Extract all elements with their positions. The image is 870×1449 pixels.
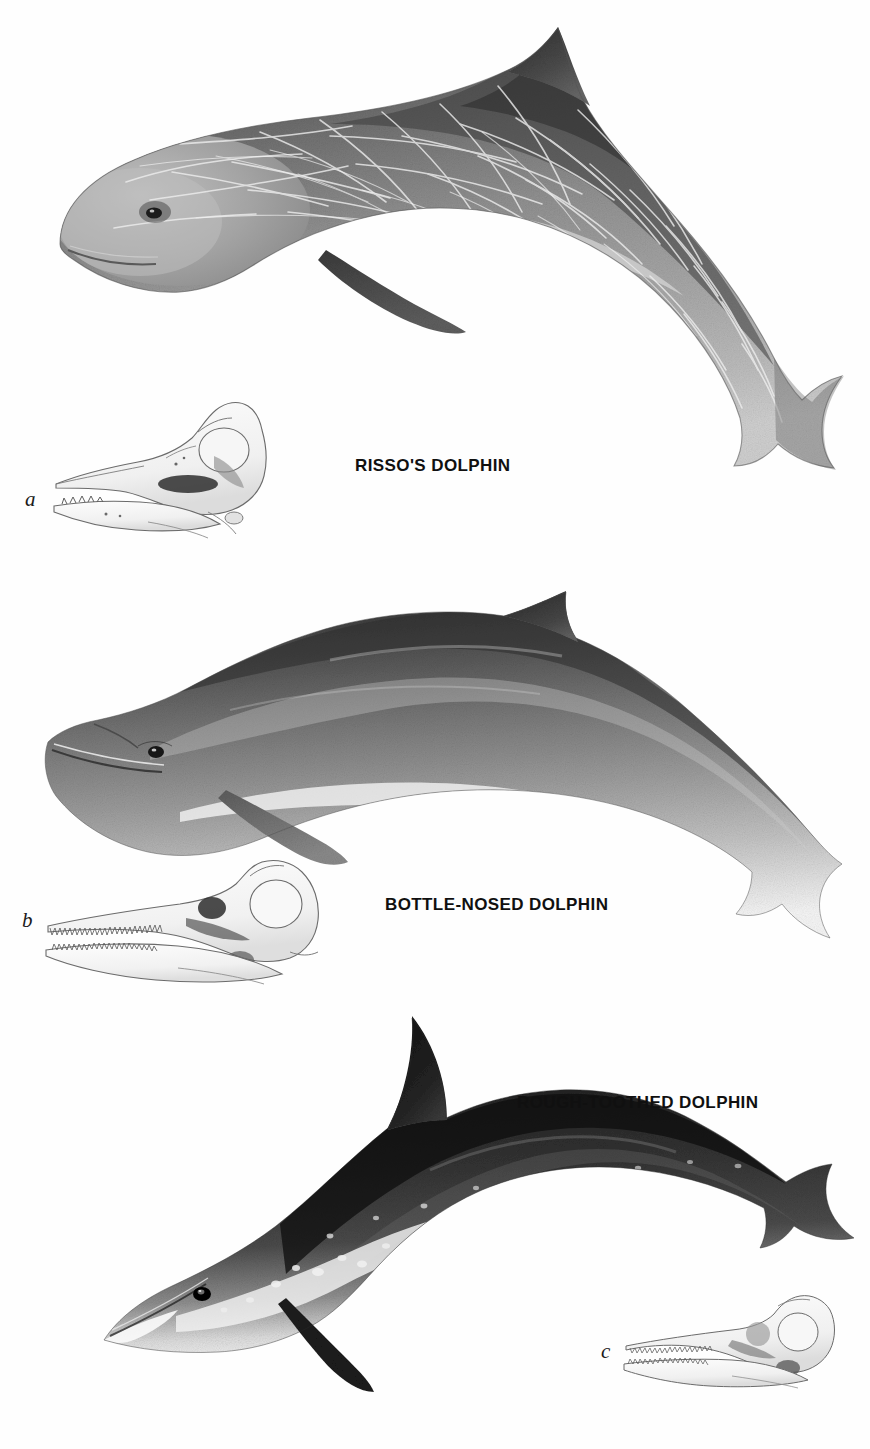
species-label-rough-toothed-dolphin: ROUGH-TOOTHED DOLPHIN	[517, 1093, 758, 1113]
rissos-skull-figure	[48, 392, 278, 552]
rissos-pectoral-flipper	[318, 250, 466, 334]
rough-toothed-skull-figure	[622, 1292, 842, 1402]
species-label-bottle-nosed-dolphin: BOTTLE-NOSED DOLPHIN	[385, 895, 608, 915]
skull-c-orbit	[778, 1313, 818, 1351]
skull-key-c: c	[601, 1339, 610, 1364]
skull-a-temporal-fossa	[158, 475, 218, 493]
species-label-rissos-dolphin: RISSO'S DOLPHIN	[355, 456, 511, 476]
skull-key-b: b	[22, 908, 33, 933]
dolphin-plate: a RISSO'S DOLPHIN	[0, 0, 870, 1449]
skull-key-a: a	[25, 487, 36, 512]
skull-c-temporal-fossa	[746, 1322, 770, 1346]
skull-b-orbit	[250, 880, 302, 928]
bottle-nosed-skull-figure	[44, 856, 334, 986]
skull-b-antorbital-notch	[198, 897, 226, 919]
rough-toothed-dorsal-fin	[388, 1016, 447, 1130]
